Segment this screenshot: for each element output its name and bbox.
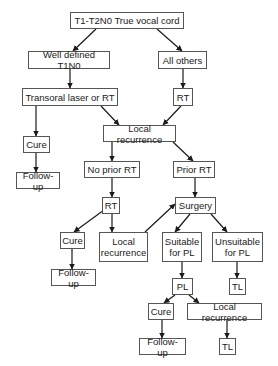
treatment-flowchart: T1-T2N0 True vocal cord Well defined T1N… [0,0,278,366]
arrow-pl-to-cure3 [164,295,175,303]
node-root: T1-T2N0 True vocal cord [70,12,184,29]
node-pl: PL [172,278,193,295]
node-tl-first: TL [229,278,246,295]
arrow-local_rec2-to-surgery [145,204,175,232]
node-follow-up-first: Follow-up [16,172,60,189]
arrow-surgery-to-unsuitable_pl [211,214,227,232]
node-no-prior-rt: No prior RT [84,161,140,178]
node-local-recurrence-third: Local recurrence [187,303,262,320]
node-prior-rt: Prior RT [173,161,215,178]
arrow-rt2-to-cure2 [74,210,104,232]
node-follow-up-second: Follow-up [51,269,96,286]
node-transoral-laser-or-rt: Transoral laser or RT [22,88,118,106]
arrow-root-to-all_others [157,29,182,51]
arrow-local_rec1-to-prior_rt [173,142,193,161]
node-all-others: All others [158,51,207,69]
arrow-root-to-well_defined [73,29,96,51]
node-suitable-for-pl: Suitable for PL [162,232,202,262]
node-cure-third: Cure [148,303,174,320]
node-local-recurrence-second: Local recurrence [99,232,148,262]
node-rt-first: RT [173,88,193,106]
node-unsuitable-for-pl: Unsuitable for PL [212,232,263,262]
node-tl-second: TL [219,338,236,355]
node-cure-second: Cure [60,232,85,249]
arrow-surgery-to-suitable_pl [175,214,190,232]
node-follow-up-third: Follow-up [139,338,186,355]
node-local-recurrence-first: Local recurrence [103,125,176,142]
node-rt-second: RT [102,197,120,214]
node-surgery: Surgery [175,197,216,214]
node-cure-first: Cure [23,136,50,153]
node-well-defined-t1n0: Well defined T1N0 [28,51,110,69]
